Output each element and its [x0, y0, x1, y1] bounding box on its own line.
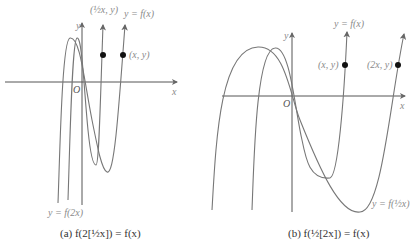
- panel-b-point-transformed-label: (2x, y): [367, 59, 393, 70]
- panel-a-curve-transformed-label: y = f(2x): [48, 207, 83, 218]
- panel-a-curve-original-label: y = f(x): [124, 8, 154, 19]
- panel-b-origin-label: O: [283, 98, 290, 109]
- panel-a-curve-original: [58, 25, 125, 203]
- panel-a-origin-label: O: [73, 84, 80, 95]
- panel-a-point-transformed: [100, 52, 106, 58]
- panel-b-curve-original-label: y = f(x): [334, 18, 364, 29]
- panel-a-caption: (a) f(2[½x]) = f(x): [60, 227, 141, 239]
- panel-b-curve-transformed-label: y = f(½x): [372, 198, 410, 209]
- panel-a-curve-transformed: [68, 25, 103, 200]
- panel-b-x-label: x: [400, 100, 404, 111]
- panel-b-point-transformed: [395, 62, 401, 68]
- panel-a-x-label: x: [172, 86, 176, 97]
- panel-b-caption: (b) f(½[2x]) = f(x): [288, 227, 369, 239]
- panel-a-point-original-label: (x, y): [129, 49, 150, 60]
- panel-a-y-label: y: [76, 20, 80, 31]
- panel-a-point-transformed-label: (½x, y): [90, 4, 118, 15]
- panel-b-y-label: y: [284, 30, 288, 41]
- panel-b-point-original: [342, 62, 348, 68]
- panel-a-point-original: [120, 52, 126, 58]
- panel-b-point-original-label: (x, y): [318, 59, 339, 70]
